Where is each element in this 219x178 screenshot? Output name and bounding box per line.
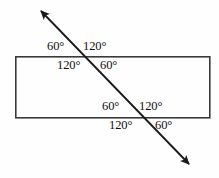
angle-label-upper-below-left: 120° xyxy=(57,59,80,72)
angle-label-lower-below-left: 120° xyxy=(109,119,132,132)
diagram-canvas xyxy=(0,0,219,178)
angle-label-upper-above-right: 120° xyxy=(83,40,106,53)
geometry-diagram: 60° 120° 120° 60° 60° 120° 120° 60° xyxy=(0,0,219,178)
angle-label-lower-above-right: 120° xyxy=(139,100,162,113)
angle-label-lower-below-right: 60° xyxy=(155,119,172,132)
angle-label-lower-above-left: 60° xyxy=(102,100,119,113)
angle-label-upper-below-right: 60° xyxy=(100,59,117,72)
angle-label-upper-above-left: 60° xyxy=(47,40,64,53)
transversal-line xyxy=(41,11,189,164)
